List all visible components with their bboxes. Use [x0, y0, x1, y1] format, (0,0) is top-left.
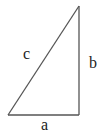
hypotenuse-label: c	[23, 46, 30, 62]
triangle-diagram: c b a	[0, 0, 105, 137]
vertical-leg-label: b	[89, 55, 97, 71]
hypotenuse-line	[8, 6, 79, 115]
horizontal-leg-label: a	[41, 117, 48, 133]
